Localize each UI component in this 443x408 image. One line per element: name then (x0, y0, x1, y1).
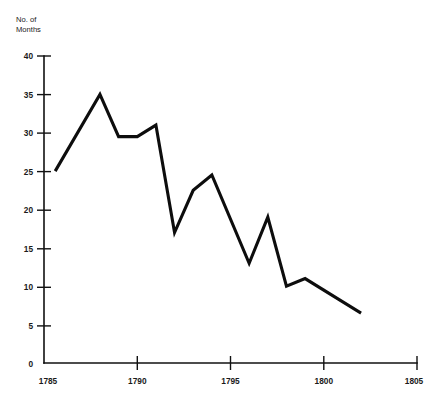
y-tick-label-40: 40 (24, 51, 34, 61)
x-tick-label-1805: 1805 (405, 376, 424, 386)
x-tick-label-1785: 1785 (39, 376, 58, 386)
axis-title-group: No. of Months (16, 15, 41, 34)
y-tick-label-15: 15 (24, 244, 34, 254)
series-group (55, 94, 361, 313)
y-tick-label-25: 25 (24, 167, 34, 177)
x-axis: 1785 1790 1795 1800 1805 (39, 356, 424, 386)
x-tick-label-1790: 1790 (128, 376, 147, 386)
y-tick-label-0: 0 (28, 359, 33, 369)
y-axis: 40 35 30 25 20 15 10 5 0 (24, 51, 51, 369)
y-axis-title-line-2: Months (16, 25, 41, 34)
y-tick-label-5: 5 (28, 321, 33, 331)
chart-container: No. of Months 40 35 30 25 20 15 10 5 0 (0, 0, 443, 408)
data-line-no-of-months (55, 94, 361, 313)
x-tick-label-1795: 1795 (221, 376, 240, 386)
y-tick-label-30: 30 (24, 128, 34, 138)
y-axis-title-line-1: No. of (16, 15, 37, 24)
line-chart: No. of Months 40 35 30 25 20 15 10 5 0 (0, 0, 443, 408)
y-tick-label-20: 20 (24, 205, 34, 215)
y-tick-label-10: 10 (24, 282, 34, 292)
y-tick-label-35: 35 (24, 90, 34, 100)
x-tick-label-1800: 1800 (315, 376, 334, 386)
